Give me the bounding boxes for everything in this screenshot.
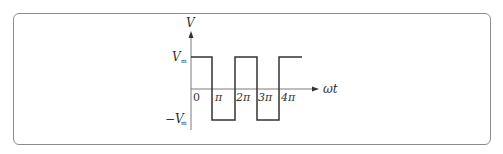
tick-3pi: 3π (258, 91, 273, 104)
x-axis-arrow-icon (312, 87, 319, 92)
svg-text:m: m (181, 119, 187, 126)
square-wave-diagram: V ωt V m −V m 0 π 2π 3π 4π (0, 0, 503, 154)
y-axis-arrow-icon (189, 31, 194, 38)
svg-text:m: m (181, 57, 187, 64)
tick-2pi: 2π (235, 91, 251, 104)
tick-pi: π (214, 91, 223, 104)
y-axis (189, 31, 194, 130)
neg-vm-label: −V m (165, 112, 187, 126)
x-axis (191, 87, 319, 92)
tick-4pi: 4π (280, 91, 296, 104)
tick-0: 0 (193, 91, 200, 104)
y-axis-label: V (186, 16, 196, 30)
vm-label: V m (172, 50, 187, 64)
x-axis-label: ωt (323, 82, 338, 96)
